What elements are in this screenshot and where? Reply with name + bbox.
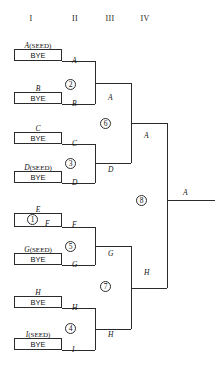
inline-competitor-label: F	[45, 219, 50, 228]
match-number-4: 4	[65, 323, 76, 334]
match-number-5: 5	[65, 241, 76, 252]
entrant-slot-e	[14, 213, 62, 227]
tournament-bracket-diagram: IIIIIIIV A(SEED)BYEBBYECBYED(SEED)BYEEG(…	[0, 0, 217, 377]
match-number-8: 8	[136, 195, 147, 206]
advancing-competitor-label: D	[108, 165, 113, 174]
advancing-competitor-label: A	[144, 131, 149, 140]
advancing-competitor-label: G	[108, 249, 113, 258]
connector-line	[62, 104, 95, 105]
connector-line	[95, 163, 131, 164]
connector-line	[62, 265, 95, 266]
match-number-3: 3	[65, 158, 76, 169]
bye-label: BYE	[14, 340, 62, 349]
round-label-iv: IV	[135, 14, 155, 23]
connector-line	[62, 183, 95, 184]
round-label-iii: III	[100, 14, 120, 23]
match-number-7: 7	[100, 281, 111, 292]
connector-line	[95, 83, 131, 84]
connector-line	[131, 288, 167, 289]
advancing-competitor-label: H	[144, 268, 149, 277]
advancing-competitor-label: D	[72, 178, 77, 187]
match-number-6: 6	[100, 118, 111, 129]
bye-label: BYE	[14, 298, 62, 307]
bye-label: BYE	[14, 134, 62, 143]
connector-line	[167, 123, 168, 288]
advancing-competitor-label: I	[72, 345, 75, 354]
advancing-competitor-label: B	[72, 99, 77, 108]
advancing-competitor-label: C	[72, 139, 77, 148]
connector-line	[167, 200, 215, 201]
bye-label: BYE	[14, 255, 62, 264]
connector-line	[62, 350, 95, 351]
connector-line	[62, 61, 95, 62]
advancing-competitor-label: F	[72, 220, 77, 229]
advancing-competitor-label: H	[108, 330, 113, 339]
connector-line	[62, 227, 95, 228]
connector-line	[95, 246, 131, 247]
round-label-ii: II	[65, 14, 85, 23]
advancing-competitor-label: A	[108, 93, 113, 102]
advancing-competitor-label: H	[72, 303, 77, 312]
advancing-competitor-label: G	[72, 260, 77, 269]
match-number-2: 2	[65, 79, 76, 90]
bye-label: BYE	[14, 173, 62, 182]
advancing-competitor-label: A	[183, 188, 188, 197]
bye-label: BYE	[14, 51, 62, 60]
connector-line	[62, 144, 95, 145]
match-number-1: 1	[27, 214, 38, 225]
advancing-competitor-label: A	[72, 56, 77, 65]
bye-label: BYE	[14, 94, 62, 103]
connector-line	[131, 123, 167, 124]
connector-line	[62, 308, 95, 309]
round-label-i: I	[21, 14, 41, 23]
